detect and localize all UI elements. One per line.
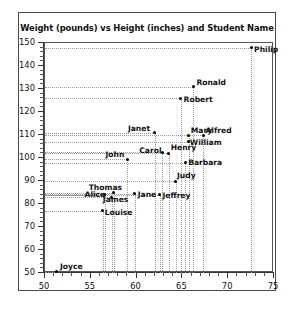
y-tick-label: 150 <box>19 37 35 47</box>
y-tick-label: 140 <box>19 60 35 70</box>
data-point-label: Alfred <box>205 127 231 135</box>
x-tick-minor <box>255 272 256 276</box>
plot-area: PhilipRonaldRobertJanetMaryAlfredWilliam… <box>44 42 273 272</box>
data-point-label: Joyce <box>60 263 83 271</box>
data-point-label: Carol <box>139 147 161 155</box>
x-tick-minor <box>200 272 201 276</box>
data-point-label: Henry <box>171 144 197 152</box>
x-tick-minor <box>246 272 247 276</box>
data-point-label: Philip <box>254 46 278 54</box>
x-tick-label: 70 <box>222 281 233 291</box>
x-tick-mark <box>273 272 274 278</box>
gridline-vertical <box>169 153 170 273</box>
x-tick-minor <box>209 272 210 276</box>
data-point <box>126 158 129 161</box>
gridline-vertical <box>103 211 104 273</box>
data-point <box>153 131 156 134</box>
data-point-label: John <box>105 151 124 159</box>
data-point-label: Judy <box>177 172 196 180</box>
data-point-label: Ronald <box>196 79 226 87</box>
x-tick-minor <box>145 272 146 276</box>
y-tick-label: 50 <box>24 267 35 277</box>
gridline-horizontal <box>45 211 103 212</box>
x-tick-minor <box>117 272 118 276</box>
x-axis-spine <box>44 272 273 273</box>
gridline-horizontal <box>45 133 155 134</box>
x-tick-label: 55 <box>84 281 95 291</box>
gridline-horizontal <box>45 163 185 164</box>
chart-title: Weight (pounds) vs Height (inches) and S… <box>19 23 275 33</box>
gridline-horizontal <box>45 159 127 160</box>
x-tick-minor <box>99 272 100 276</box>
x-tick-mark <box>227 272 228 278</box>
gridline-vertical <box>203 135 204 273</box>
data-point <box>167 152 170 155</box>
gridline-horizontal <box>45 48 251 49</box>
x-tick-label: 65 <box>176 281 187 291</box>
y-tick-label: 80 <box>24 198 35 208</box>
data-point-label: Barbara <box>188 159 222 167</box>
y-tick-label: 70 <box>24 221 35 231</box>
x-tick-label: 50 <box>39 281 50 291</box>
x-tick-label: 75 <box>268 281 279 291</box>
gridline-horizontal <box>45 142 189 143</box>
gridline-vertical <box>160 195 161 273</box>
y-tick-label: 130 <box>19 83 35 93</box>
y-tick-label: 110 <box>19 129 35 139</box>
gridline-horizontal <box>45 181 176 182</box>
data-point-label: Robert <box>184 96 213 104</box>
gridline-vertical <box>105 195 106 273</box>
gridline-vertical <box>181 98 182 273</box>
x-tick-mark <box>44 272 45 278</box>
data-point <box>192 85 195 88</box>
data-point <box>158 193 161 196</box>
gridline-vertical <box>114 193 115 274</box>
data-point-label: Janet <box>128 125 150 133</box>
y-tick-label: 90 <box>24 175 35 185</box>
gridline-horizontal <box>45 135 203 136</box>
data-point-label: Jane <box>138 191 157 199</box>
x-tick-minor <box>264 272 265 276</box>
figure-frame: Weight (pounds) vs Height (inches) and S… <box>18 12 276 291</box>
x-tick-minor <box>172 272 173 276</box>
x-tick-minor <box>62 272 63 276</box>
data-point-label: Louise <box>105 209 133 217</box>
x-tick-minor <box>108 272 109 276</box>
x-tick-minor <box>81 272 82 276</box>
data-point <box>179 97 182 100</box>
data-point-label: James <box>103 196 129 204</box>
x-tick-label: 60 <box>130 281 141 291</box>
data-point <box>250 46 253 49</box>
gridline-horizontal <box>45 98 181 99</box>
y-tick-label: 60 <box>24 244 35 254</box>
gridline-horizontal <box>45 87 193 88</box>
gridline-vertical <box>162 152 163 273</box>
data-point-label: Jeffrey <box>163 192 191 200</box>
x-tick-minor <box>218 272 219 276</box>
data-point <box>184 161 187 164</box>
x-tick-minor <box>191 272 192 276</box>
x-tick-minor <box>236 272 237 276</box>
y-tick-label: 100 <box>19 152 35 162</box>
gridline-vertical <box>251 48 252 273</box>
y-tick-label: 120 <box>19 106 35 116</box>
x-tick-mark <box>90 272 91 278</box>
x-tick-minor <box>71 272 72 276</box>
gridline-vertical <box>135 194 136 273</box>
